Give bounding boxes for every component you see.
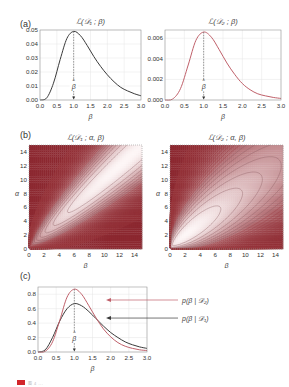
svg-text:ℒ(𝒟₂ ; α, β): ℒ(𝒟₂ ; α, β) <box>208 133 246 142</box>
svg-text:12: 12 <box>116 251 123 258</box>
svg-text:ℒ(𝒟₁ ; α, β): ℒ(𝒟₁ ; α, β) <box>67 133 105 142</box>
svg-text:1.5: 1.5 <box>88 354 97 361</box>
svg-text:0: 0 <box>168 251 172 258</box>
svg-text:2.0: 2.0 <box>106 354 115 361</box>
svg-text:6: 6 <box>165 203 169 210</box>
svg-text:β: β <box>201 83 206 91</box>
svg-text:0.004: 0.004 <box>148 55 164 62</box>
svg-text:0.0: 0.0 <box>36 102 45 109</box>
contour-likelihood-d1: 0246810121402468101214ℒ(𝒟₁ ; α, β)βα <box>0 118 150 268</box>
svg-text:0.5: 0.5 <box>180 102 189 109</box>
svg-text:4: 4 <box>57 251 61 258</box>
figure-caption: 图 4 ... <box>17 380 43 385</box>
svg-text:2: 2 <box>42 251 46 258</box>
svg-text:1.0: 1.0 <box>199 102 208 109</box>
svg-text:1.5: 1.5 <box>219 102 228 109</box>
svg-text:12: 12 <box>20 162 27 169</box>
chart-likelihood-d2: 0.00.51.01.52.02.53.00.0000.0020.0040.00… <box>140 0 289 125</box>
svg-text:β: β <box>71 83 76 91</box>
svg-text:0.4: 0.4 <box>27 319 36 326</box>
svg-text:0.00: 0.00 <box>26 96 39 103</box>
svg-text:10: 10 <box>20 176 27 183</box>
svg-text:2.5: 2.5 <box>257 102 266 109</box>
svg-text:14: 14 <box>161 148 168 155</box>
svg-text:10: 10 <box>161 176 168 183</box>
svg-text:3.0: 3.0 <box>277 102 286 109</box>
svg-text:8: 8 <box>24 190 28 197</box>
svg-text:10: 10 <box>101 251 108 258</box>
svg-text:8: 8 <box>165 190 169 197</box>
chart-likelihood-d1: 0.00.51.01.52.02.53.00.000.010.020.030.0… <box>0 0 150 125</box>
svg-text:0.5: 0.5 <box>52 354 61 361</box>
svg-text:0.03: 0.03 <box>26 54 39 61</box>
svg-text:2.5: 2.5 <box>120 102 129 109</box>
svg-text:0.006: 0.006 <box>148 34 164 41</box>
svg-text:2: 2 <box>183 251 187 258</box>
svg-text:2: 2 <box>24 231 28 238</box>
svg-text:0.000: 0.000 <box>148 96 164 103</box>
caption-text: 图 4 ... <box>28 380 43 386</box>
svg-text:12: 12 <box>257 251 264 258</box>
svg-text:2.0: 2.0 <box>238 102 247 109</box>
svg-text:0.04: 0.04 <box>26 40 39 47</box>
svg-text:0: 0 <box>24 245 28 252</box>
svg-text:ℒ(𝒟₂ ; β): ℒ(𝒟₂ ; β) <box>208 17 238 26</box>
svg-text:2.0: 2.0 <box>103 102 112 109</box>
svg-text:6: 6 <box>213 251 217 258</box>
svg-text:8: 8 <box>229 251 233 258</box>
svg-text:4: 4 <box>198 251 202 258</box>
svg-text:0: 0 <box>165 245 169 252</box>
svg-text:14: 14 <box>20 148 27 155</box>
svg-text:0.0: 0.0 <box>27 348 36 355</box>
svg-text:ℒ(𝒟₁ ; β): ℒ(𝒟₁ ; β) <box>76 17 105 26</box>
svg-text:0.2: 0.2 <box>27 334 36 341</box>
svg-text:6: 6 <box>72 251 76 258</box>
svg-text:β: β <box>90 365 95 373</box>
svg-text:1.0: 1.0 <box>69 102 78 109</box>
svg-text:3.0: 3.0 <box>143 354 152 361</box>
svg-text:1.0: 1.0 <box>70 354 79 361</box>
svg-text:p(β | 𝒟₁): p(β | 𝒟₁) <box>181 315 208 323</box>
svg-text:0.6: 0.6 <box>27 305 36 312</box>
svg-text:14: 14 <box>131 251 138 258</box>
svg-text:0.02: 0.02 <box>26 68 39 75</box>
svg-text:2: 2 <box>165 231 169 238</box>
svg-text:10: 10 <box>242 251 249 258</box>
svg-text:1.5: 1.5 <box>86 102 95 109</box>
svg-text:4: 4 <box>165 217 169 224</box>
svg-text:0.002: 0.002 <box>148 75 164 82</box>
svg-text:β: β <box>71 335 76 343</box>
caption-marker <box>17 380 25 385</box>
svg-text:12: 12 <box>161 162 168 169</box>
svg-text:0: 0 <box>27 251 31 258</box>
svg-text:4: 4 <box>24 217 28 224</box>
contour-likelihood-d2: 0246810121402468101214ℒ(𝒟₂ ; α, β)βα <box>140 118 289 268</box>
svg-text:0.0: 0.0 <box>161 102 170 109</box>
svg-text:8: 8 <box>88 251 92 258</box>
svg-text:0.8: 0.8 <box>27 290 36 297</box>
svg-text:0.01: 0.01 <box>26 82 39 89</box>
chart-posteriors: 0.00.51.01.52.02.53.00.00.20.40.60.8β^βp… <box>0 262 289 377</box>
svg-text:2.5: 2.5 <box>125 354 134 361</box>
svg-text:0.05: 0.05 <box>26 26 39 33</box>
svg-text:14: 14 <box>272 251 279 258</box>
svg-text:0.0: 0.0 <box>34 354 43 361</box>
svg-text:p(β | 𝒟₂): p(β | 𝒟₂) <box>181 297 209 305</box>
svg-text:6: 6 <box>24 203 28 210</box>
svg-text:0.5: 0.5 <box>53 102 62 109</box>
